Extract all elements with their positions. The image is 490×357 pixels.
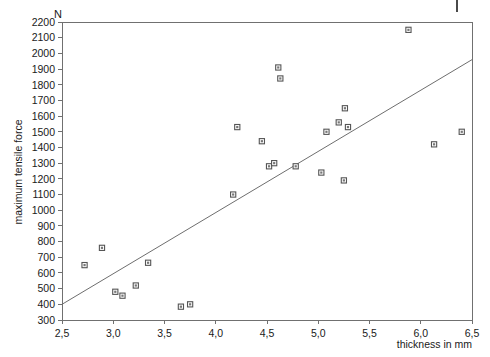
y-tick-label: 1600: [32, 110, 56, 122]
data-point: [293, 164, 298, 169]
data-point: [266, 164, 271, 169]
y-tick-label: 1500: [32, 126, 56, 138]
x-tick-label: 5,5: [362, 327, 377, 339]
y-tick-label: 1900: [32, 63, 56, 75]
axes-group: [62, 22, 472, 320]
data-point: [235, 124, 240, 129]
scatter-plot-canvas: 3004005006007008009001000110012001300140…: [0, 0, 490, 357]
data-point-core: [135, 284, 137, 286]
y-tick-label: 500: [37, 282, 55, 294]
y-tick-label: 600: [37, 267, 55, 279]
data-point: [178, 304, 183, 309]
data-point-core: [338, 121, 340, 123]
y-axis-unit-label: N: [54, 8, 62, 20]
data-point-core: [268, 165, 270, 167]
data-point-core: [261, 140, 263, 142]
data-point: [319, 170, 324, 175]
data-point: [146, 260, 151, 265]
data-point: [113, 289, 118, 294]
data-point-core: [236, 126, 238, 128]
data-point-core: [277, 66, 279, 68]
data-point-core: [295, 165, 297, 167]
y-tick-label: 300: [37, 314, 55, 326]
x-tick-label: 4,5: [260, 327, 275, 339]
data-point-core: [83, 264, 85, 266]
x-tick-label: 4,0: [208, 327, 223, 339]
x-tick-label: 3,0: [106, 327, 121, 339]
data-point: [133, 283, 138, 288]
data-points-group: [82, 27, 464, 309]
data-point-core: [180, 306, 182, 308]
data-point-core: [344, 107, 346, 109]
x-tick-label: 5,0: [311, 327, 326, 339]
y-tick-label: 900: [37, 220, 55, 232]
data-point-core: [461, 131, 463, 133]
data-point-core: [279, 77, 281, 79]
y-tick-label: 2000: [32, 47, 56, 59]
y-tick-label: 1400: [32, 141, 56, 153]
x-tick-label: 3,5: [157, 327, 172, 339]
data-point-core: [273, 162, 275, 164]
data-point-core: [101, 247, 103, 249]
data-point: [259, 139, 264, 144]
data-point: [459, 129, 464, 134]
data-point-core: [407, 29, 409, 31]
y-tick-label: 700: [37, 251, 55, 263]
data-point: [341, 178, 346, 183]
data-point: [324, 129, 329, 134]
data-point: [82, 263, 87, 268]
x-axis-tick-labels: 2,53,03,54,04,55,05,56,06,5: [55, 320, 480, 339]
x-axis-title: thickness in mm: [397, 338, 473, 350]
data-point-core: [121, 295, 123, 297]
data-point: [336, 120, 341, 125]
data-point-core: [347, 126, 349, 128]
data-point: [272, 161, 277, 166]
data-point: [231, 192, 236, 197]
y-axis-title: maximum tensile force: [12, 119, 24, 224]
data-point: [406, 27, 411, 32]
y-tick-label: 1000: [32, 204, 56, 216]
y-tick-label: 400: [37, 298, 55, 310]
y-tick-label: 1200: [32, 173, 56, 185]
plot-frame: [62, 22, 472, 320]
data-point: [188, 302, 193, 307]
y-tick-label: 800: [37, 235, 55, 247]
data-point: [276, 65, 281, 70]
data-point-core: [433, 143, 435, 145]
x-tick-label: 2,5: [55, 327, 70, 339]
data-point: [345, 124, 350, 129]
data-point: [431, 142, 436, 147]
data-point-core: [114, 291, 116, 293]
data-point: [120, 293, 125, 298]
data-point-core: [232, 193, 234, 195]
regression-line: [62, 60, 472, 305]
y-tick-label: 1300: [32, 157, 56, 169]
data-point: [99, 245, 104, 250]
data-point: [278, 76, 283, 81]
y-tick-label: 1100: [32, 188, 55, 200]
y-axis-tick-labels: 3004005006007008009001000110012001300140…: [32, 16, 62, 326]
data-point-core: [325, 131, 327, 133]
y-tick-label: 1700: [32, 94, 56, 106]
data-point-core: [343, 179, 345, 181]
trend-line: [62, 60, 472, 305]
data-point-core: [320, 171, 322, 173]
data-point-core: [189, 303, 191, 305]
chart-figure: 3004005006007008009001000110012001300140…: [0, 0, 490, 357]
corner-crop-mark: [456, 0, 458, 12]
y-tick-label: 2100: [32, 31, 56, 43]
y-tick-label: 2200: [32, 16, 56, 28]
data-point-core: [147, 262, 149, 264]
data-point: [342, 106, 347, 111]
y-tick-label: 1800: [32, 79, 56, 91]
